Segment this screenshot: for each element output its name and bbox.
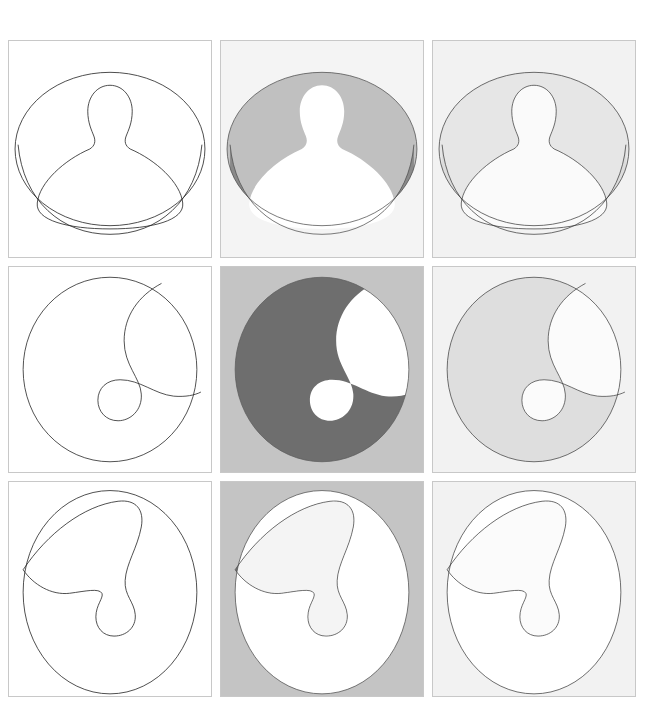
panel-r3c1: [8, 481, 212, 697]
s-curve-boundary: [98, 283, 201, 420]
panel-r3c3: [432, 481, 636, 697]
trefoil-contrast-svg: [221, 482, 423, 696]
ellipse-tall: [23, 491, 197, 694]
comma-outline-svg: [9, 267, 211, 472]
panel-r2c1: [8, 266, 212, 473]
panel-r1c3: [432, 40, 636, 258]
trefoil-tint-svg: [433, 482, 635, 696]
pawn-contrast-svg: [221, 41, 423, 257]
ellipse-round: [23, 277, 197, 462]
pawn-tint-svg: [433, 41, 635, 257]
figure-root: [0, 0, 648, 713]
comma-contrast-svg: [221, 267, 423, 472]
bowl-arc: [18, 145, 202, 235]
comma-tint-svg: [433, 267, 635, 472]
panel-r1c2: [220, 40, 424, 258]
panel-r2c3: [432, 266, 636, 473]
pawn-outline-svg: [9, 41, 211, 257]
trefoil-outline-svg: [9, 482, 211, 696]
panel-r3c2: [220, 481, 424, 697]
panel-grid: [0, 0, 648, 713]
trefoil-blob: [23, 501, 142, 636]
ellipse-wide: [15, 72, 205, 225]
panel-r2c2: [220, 266, 424, 473]
panel-r1c1: [8, 40, 212, 258]
pawn-silhouette: [37, 85, 183, 229]
